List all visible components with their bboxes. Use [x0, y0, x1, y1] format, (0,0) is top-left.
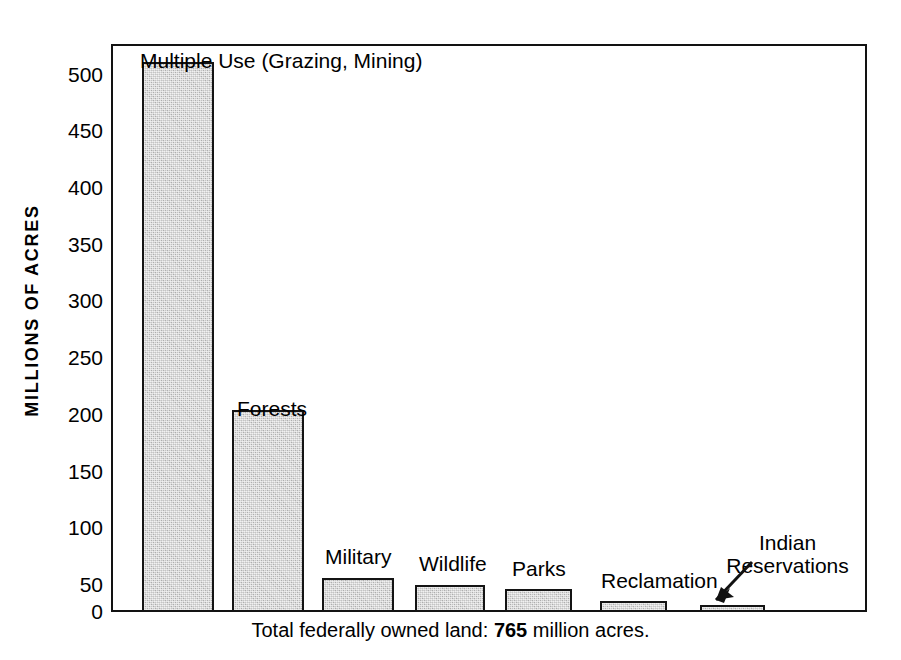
y-tick-label-200: 200: [68, 404, 103, 425]
bar-chart: MILLIONS OF ACRES 500 450 400 350 300 25…: [0, 0, 901, 660]
leader-arrow-icon: [690, 556, 770, 612]
y-tick-label-100: 100: [68, 517, 103, 538]
caption-total: 765: [494, 619, 527, 641]
plot-frame: [111, 44, 867, 612]
y-tick-label-150: 150: [68, 461, 103, 482]
y-tick-label-500: 500: [68, 64, 103, 85]
bar-forests: [232, 410, 304, 612]
y-tick-label-450: 450: [68, 120, 103, 141]
y-tick-label-300: 300: [68, 290, 103, 311]
y-tick-label-400: 400: [68, 177, 103, 198]
bar-reclamation: [600, 601, 667, 612]
caption-prefix: Total federally owned land:: [251, 619, 488, 641]
y-tick-label-250: 250: [68, 347, 103, 368]
bar-label-military: Military: [325, 546, 392, 569]
chart-caption: Total federally owned land: 765 million …: [0, 619, 901, 642]
bar-military: [322, 578, 394, 612]
caption-suffix: million acres.: [533, 619, 650, 641]
bar-multiple-use: [142, 62, 214, 612]
bar-label-parks: Parks: [512, 558, 566, 581]
bar-label-wildlife: Wildlife: [419, 553, 487, 576]
bar-label-multiple-use: Multiple Use (Grazing, Mining): [140, 50, 422, 73]
y-tick-label-350: 350: [68, 234, 103, 255]
bar-label-forests: Forests: [237, 398, 307, 421]
y-axis-title: MILLIONS OF ACRES: [22, 161, 43, 461]
bar-parks: [505, 589, 572, 612]
y-tick-label-50: 50: [80, 574, 103, 595]
bar-wildlife: [415, 585, 485, 612]
